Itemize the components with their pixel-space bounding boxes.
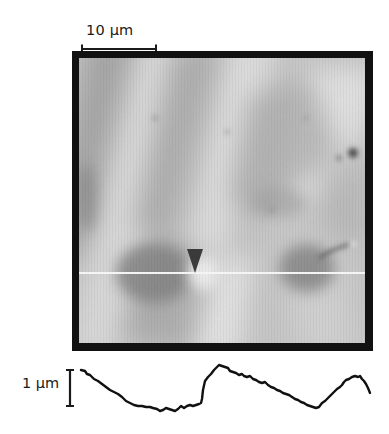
scale-bar-label-horizontal: 10 µm <box>86 22 133 38</box>
scan-line <box>79 272 365 274</box>
position-marker-triangle-icon <box>187 249 203 273</box>
afm-topography-image <box>79 58 365 343</box>
scale-bar-vertical <box>64 368 76 408</box>
height-profile-line <box>81 365 370 411</box>
afm-image-frame <box>72 51 373 351</box>
height-profile-plot <box>78 355 373 415</box>
scale-bar-label-vertical: 1 µm <box>22 375 59 391</box>
